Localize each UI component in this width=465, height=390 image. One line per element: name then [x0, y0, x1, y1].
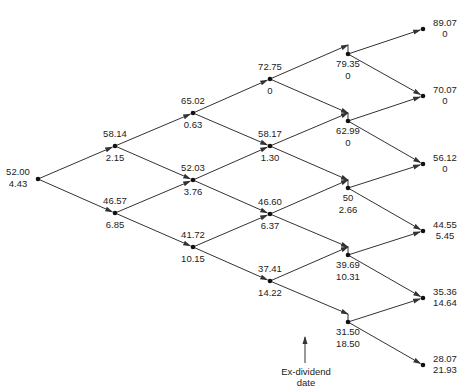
- tree-node-dot: [268, 77, 273, 82]
- node-option-value-label: 0: [250, 85, 290, 96]
- tree-edge: [348, 232, 420, 255]
- node-price-label: 72.75: [250, 61, 290, 72]
- tree-node-dot: [113, 144, 118, 149]
- node-option-value-label: 0: [427, 28, 463, 39]
- tree-node-dot: [421, 363, 426, 368]
- node-option-value-label: 4.43: [2, 178, 34, 189]
- tree-node-dot: [268, 144, 273, 149]
- node-price-label: 58.14: [95, 128, 135, 139]
- tree-node-dot: [346, 119, 351, 124]
- tree-edge: [348, 97, 420, 121]
- node-option-value-label: 0.63: [173, 119, 213, 130]
- tree-node-dot: [421, 162, 426, 167]
- node-price-label: 52.00: [2, 166, 34, 177]
- node-price-label: 44.55: [427, 219, 463, 230]
- tree-node-dot: [268, 279, 273, 284]
- node-price-label: 58.17: [250, 128, 290, 139]
- tree-edge: [348, 165, 420, 188]
- node-option-value-label: 0: [328, 70, 368, 81]
- tree-node-dot: [191, 178, 196, 183]
- tree-node-dot: [191, 111, 196, 116]
- ex-dividend-label-line1: Ex-dividend: [280, 366, 332, 377]
- node-price-label: 46.60: [250, 196, 290, 207]
- ex-dividend-label: Ex-dividend date: [280, 366, 332, 388]
- node-option-value-label: 10.31: [328, 271, 368, 282]
- node-option-value-label: 14.64: [427, 297, 463, 308]
- node-price-label: 46.57: [95, 195, 135, 206]
- node-option-value-label: 1.30: [250, 152, 290, 163]
- tree-edge: [348, 30, 420, 54]
- node-price-label: 50: [328, 192, 368, 203]
- node-price-label: 62.99: [328, 125, 368, 136]
- node-option-value-label: 3.76: [173, 186, 213, 197]
- node-price-label: 28.07: [427, 353, 463, 364]
- tree-node-dot: [421, 229, 426, 234]
- tree-edge: [348, 299, 420, 322]
- tree-node-dot: [421, 27, 426, 32]
- binomial-tree-diagram: [0, 0, 465, 390]
- tree-node-dot: [421, 296, 426, 301]
- node-option-value-label: 0: [427, 163, 463, 174]
- tree-node-dot: [191, 245, 196, 250]
- node-price-label: 52.03: [173, 162, 213, 173]
- node-option-value-label: 2.66: [328, 204, 368, 215]
- tree-node-dot: [113, 211, 118, 216]
- ex-dividend-label-line2: date: [280, 377, 332, 388]
- tree-node-dot: [421, 94, 426, 99]
- node-option-value-label: 6.85: [95, 219, 135, 230]
- node-option-value-label: 5.45: [427, 230, 463, 241]
- node-price-label: 39.69: [328, 259, 368, 270]
- node-option-value-label: 18.50: [328, 338, 368, 349]
- tree-node-dot: [36, 177, 41, 182]
- node-option-value-label: 21.93: [427, 364, 463, 375]
- node-price-label: 79.35: [328, 58, 368, 69]
- tree-node-dot: [346, 186, 351, 191]
- node-price-label: 41.72: [173, 229, 213, 240]
- tree-node-dot: [346, 253, 351, 258]
- node-option-value-label: 6.37: [250, 220, 290, 231]
- node-price-label: 31.50: [328, 326, 368, 337]
- tree-node-dot: [346, 320, 351, 325]
- node-price-label: 65.02: [173, 95, 213, 106]
- node-option-value-label: 14.22: [250, 287, 290, 298]
- tree-node-dot: [268, 212, 273, 217]
- node-option-value-label: 2.15: [95, 152, 135, 163]
- node-price-label: 89.07: [427, 17, 463, 28]
- node-option-value-label: 10.15: [173, 253, 213, 264]
- node-price-label: 37.41: [250, 263, 290, 274]
- node-price-label: 35.36: [427, 286, 463, 297]
- node-option-value-label: 0: [328, 137, 368, 148]
- node-price-label: 56.12: [427, 152, 463, 163]
- tree-node-dot: [346, 52, 351, 57]
- node-option-value-label: 0: [427, 95, 463, 106]
- node-price-label: 70.07: [427, 84, 463, 95]
